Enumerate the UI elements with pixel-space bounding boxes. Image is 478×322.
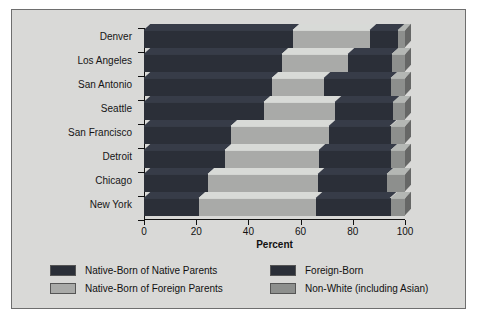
bar-segment-top — [324, 72, 397, 78]
bar-row — [144, 126, 444, 143]
x-axis-tick-label: 40 — [233, 226, 263, 237]
bar-segment-face — [348, 54, 392, 72]
bar-segment-face — [316, 198, 390, 216]
bar-segment-face — [293, 30, 370, 48]
bar-segment-top — [144, 48, 289, 54]
bar-segment-face — [282, 54, 347, 72]
bar-segment-face — [264, 102, 334, 120]
bar-segment — [329, 126, 390, 143]
bar-segment-face — [144, 174, 208, 192]
y-axis-tick — [138, 76, 145, 77]
bar-segment-top — [225, 144, 326, 150]
bar-segment-face — [319, 150, 391, 168]
plot-area: DenverLos AngelesSan AntonioSeattleSan F… — [12, 10, 467, 258]
bar-segment-top — [144, 144, 232, 150]
x-axis-tick-label: 100 — [390, 226, 420, 237]
bar-segment-top — [329, 120, 397, 126]
bar-segment — [144, 198, 199, 215]
bar-segment-face — [318, 174, 387, 192]
bar-segment — [324, 78, 391, 95]
bar-segment-top — [144, 96, 271, 102]
bar-segment-face — [144, 150, 225, 168]
x-axis-title: Percent — [144, 239, 405, 250]
chart-frame: DenverLos AngelesSan AntonioSeattleSan F… — [11, 9, 466, 309]
bar-row — [144, 174, 444, 191]
y-axis-tick — [138, 124, 145, 125]
x-axis-tick-label: 20 — [181, 226, 211, 237]
bar-row — [144, 102, 444, 119]
bar-segment — [231, 126, 329, 143]
bar-segment-top — [231, 120, 336, 126]
bar-segment — [348, 54, 392, 71]
y-axis-label-detroit: Detroit — [12, 152, 132, 162]
bar-segment-face — [393, 102, 405, 120]
bar-segment — [335, 102, 394, 119]
bar-segment-face — [231, 126, 329, 144]
bar-segment-top — [292, 24, 376, 30]
bar-segment — [144, 150, 225, 167]
bar-segment-face — [398, 30, 405, 48]
bar-segment-top — [144, 120, 238, 126]
y-axis-tick — [138, 52, 145, 53]
bar-segment — [199, 198, 316, 215]
bar-segment-face — [387, 174, 405, 192]
bar-segment-top — [319, 144, 397, 150]
y-axis-label-chicago: Chicago — [12, 176, 132, 186]
stacked-bars — [144, 28, 444, 220]
y-axis-label-seattle: Seattle — [12, 104, 132, 114]
x-axis-tick — [301, 220, 302, 225]
y-axis-tick — [138, 196, 145, 197]
legend-label: Native-Born of Native Parents — [85, 264, 217, 277]
bar-segment-top — [334, 96, 399, 102]
bar-segment-face — [329, 126, 390, 144]
bar-segment — [318, 174, 387, 191]
bar-segment-top — [208, 168, 324, 174]
bar-segment — [393, 102, 405, 119]
bar-segment — [392, 54, 405, 71]
bar-segment — [144, 78, 272, 95]
bar-row — [144, 30, 444, 47]
bar-segment-top — [144, 24, 299, 30]
bar-segment-face — [144, 78, 272, 96]
bar-row — [144, 54, 444, 71]
x-axis-tick — [144, 220, 145, 225]
x-axis-tick — [196, 220, 197, 225]
bar-segment-face — [391, 150, 405, 168]
bar-segment-top — [198, 192, 322, 198]
x-axis-tick-label: 60 — [286, 226, 316, 237]
bar-segment-top — [272, 72, 331, 78]
legend-swatch — [50, 283, 76, 294]
legend-swatch — [270, 265, 296, 276]
bar-row — [144, 198, 444, 215]
legend-label: Non-White (including Asian) — [305, 282, 428, 295]
legend-swatch — [270, 283, 296, 294]
x-axis-tick — [353, 220, 354, 225]
bar-segment-top — [144, 192, 205, 198]
x-axis-tick-label: 0 — [129, 226, 159, 237]
bar-segment — [391, 78, 405, 95]
legend-label: Native-Born of Foreign Parents — [85, 282, 223, 295]
bar-segment — [225, 150, 319, 167]
bar-row — [144, 150, 444, 167]
bar-segment-face — [144, 126, 231, 144]
bar-segment — [387, 174, 405, 191]
legend-swatch — [50, 265, 76, 276]
y-axis-category-labels: DenverLos AngelesSan AntonioSeattleSan F… — [12, 28, 132, 218]
bar-segment-face — [272, 78, 324, 96]
bar-segment — [144, 102, 264, 119]
bar-segment-face — [391, 198, 405, 216]
bar-segment-top — [316, 192, 397, 198]
bar-segment — [144, 30, 293, 47]
bar-segment — [319, 150, 391, 167]
x-axis-tick — [405, 220, 406, 225]
x-axis-tick — [248, 220, 249, 225]
x-axis-tick-label: 80 — [338, 226, 368, 237]
bar-segment — [144, 54, 282, 71]
bar-segment-top — [317, 168, 393, 174]
bar-segment — [208, 174, 318, 191]
bar-segment-top — [144, 72, 279, 78]
y-axis-label-los-angeles: Los Angeles — [12, 56, 132, 66]
bar-segment-face — [391, 126, 405, 144]
bar-segment-face — [208, 174, 318, 192]
y-axis-label-san-antonio: San Antonio — [12, 80, 132, 90]
